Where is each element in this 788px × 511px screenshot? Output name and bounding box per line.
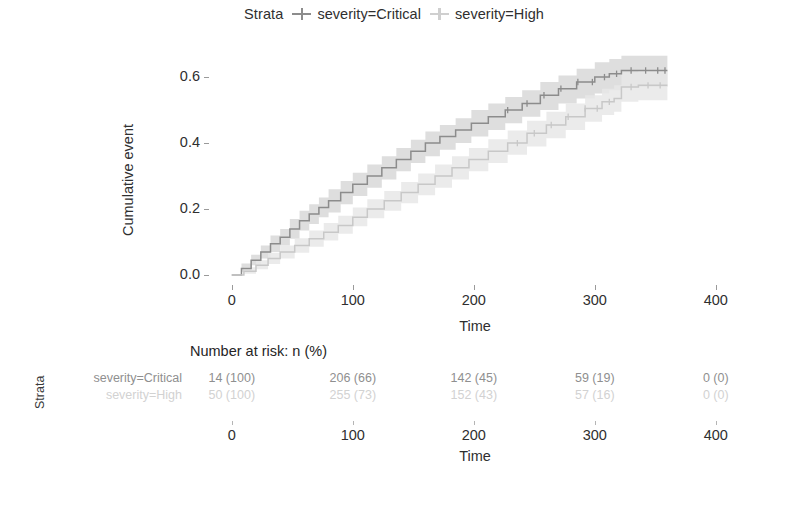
main-plot: Cumulative event 0.00.20.40.6 0100200300… [0, 30, 788, 330]
y-axis-tick-label: 0.6 [180, 68, 200, 84]
risk-cell: 59 (19) [575, 371, 615, 385]
x-axis-tick-label: 100 [341, 292, 365, 308]
plot-panel [210, 54, 740, 285]
risk-row-label-critical: severity=Critical [52, 371, 182, 385]
risk-cell: 0 (0) [703, 371, 729, 385]
x-axis-tick-label: 300 [583, 292, 607, 308]
y-axis-tick-mark [204, 143, 209, 144]
risk-table-x-axis-label: Time [210, 448, 740, 464]
risk-x-axis-tick-mark [595, 421, 596, 425]
x-axis-tick-mark [595, 285, 596, 290]
risk-row-label-high: severity=High [52, 388, 182, 402]
legend-entry-critical[interactable]: severity=Critical [292, 6, 421, 22]
risk-x-axis-tick-mark [232, 421, 233, 425]
risk-x-axis-tick-label: 100 [341, 427, 365, 443]
risk-table-strata-axis-label: Strata [31, 369, 49, 415]
plus-line-marker-icon [430, 7, 449, 21]
risk-x-axis-tick-label: 0 [228, 427, 236, 443]
risk-x-axis-tick-mark [474, 421, 475, 425]
y-axis-label: Cumulative event [118, 90, 138, 270]
legend-title: Strata [244, 6, 283, 22]
plot-page: Strata severity=Critical severity=High C… [0, 0, 788, 511]
legend: Strata severity=Critical severity=High [0, 6, 788, 22]
risk-x-axis-tick-label: 400 [704, 427, 728, 443]
risk-x-axis-tick-mark [716, 421, 717, 425]
x-axis-tick-mark [716, 285, 717, 290]
risk-cell: 57 (16) [575, 388, 615, 402]
risk-cell: 206 (66) [330, 371, 377, 385]
x-axis-tick-label: 200 [462, 292, 486, 308]
risk-cell: 50 (100) [208, 388, 255, 402]
y-axis-tick-mark [204, 209, 209, 210]
risk-x-axis-tick-mark [353, 421, 354, 425]
y-axis-tick-mark [204, 77, 209, 78]
x-axis-tick-label: 0 [228, 292, 236, 308]
risk-x-axis-tick-label: 300 [583, 427, 607, 443]
x-axis-tick-label: 400 [704, 292, 728, 308]
plus-line-marker-icon [292, 7, 311, 21]
x-axis-tick-mark [474, 285, 475, 290]
risk-cell: 14 (100) [208, 371, 255, 385]
legend-label-critical: severity=Critical [317, 6, 421, 22]
risk-table: Number at risk: n (%) Strata severity=Cr… [0, 343, 788, 473]
risk-cell: 152 (43) [451, 388, 498, 402]
y-axis-tick-labels: 0.00.20.40.6 [136, 30, 200, 330]
x-axis-tick-mark [353, 285, 354, 290]
legend-entry-high[interactable]: severity=High [430, 6, 544, 22]
y-axis-tick-label: 0.4 [180, 134, 200, 150]
y-axis-tick-mark [204, 275, 209, 276]
risk-x-axis-tick-label: 200 [462, 427, 486, 443]
risk-cell: 255 (73) [330, 388, 377, 402]
y-axis-tick-label: 0.0 [180, 266, 200, 282]
y-axis-tick-label: 0.2 [180, 200, 200, 216]
legend-label-high: severity=High [455, 6, 544, 22]
risk-table-title: Number at risk: n (%) [190, 343, 327, 359]
x-axis-label: Time [210, 318, 740, 334]
survival-curves [210, 54, 740, 285]
risk-cell: 142 (45) [451, 371, 498, 385]
risk-cell: 0 (0) [703, 388, 729, 402]
x-axis-tick-mark [232, 285, 233, 290]
